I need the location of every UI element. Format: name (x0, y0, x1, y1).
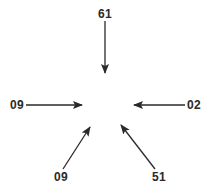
arrow-label-top: 61 (98, 8, 112, 20)
arrow-diagram: 61 09 02 09 51 (0, 0, 210, 193)
arrow-bottom-right (121, 125, 155, 169)
arrow-label-left: 09 (10, 99, 24, 111)
arrow-label-right: 02 (187, 99, 201, 111)
arrow-bottom-left (63, 127, 90, 169)
arrow-label-bottom-right: 51 (152, 171, 166, 183)
arrows-canvas (0, 0, 210, 193)
arrow-label-bottom-left: 09 (54, 171, 68, 183)
